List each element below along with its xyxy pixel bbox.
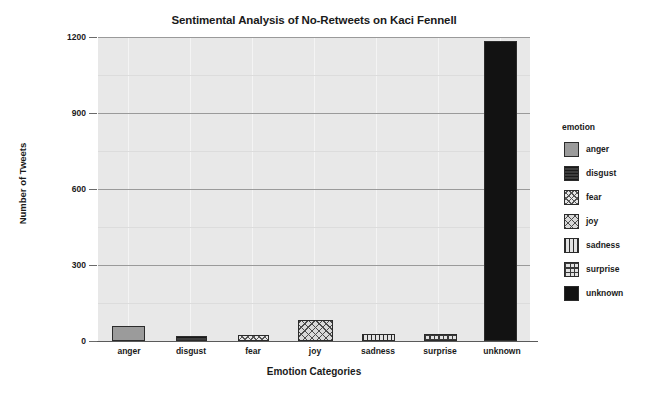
x-tick-label-sadness: sadness [361,346,395,356]
bar-chart: Sentimental Analysis of No-Retweets on K… [0,0,665,408]
bar-sadness[interactable] [362,334,395,341]
legend-label-surprise: surprise [586,264,620,274]
x-tick-label-disgust: disgust [176,346,206,356]
y-tick-label-600: 600 [50,184,86,194]
legend-label-joy: joy [586,216,598,226]
y-tickmark-600 [89,189,97,190]
plot-area [98,37,530,341]
legend-label-anger: anger [586,144,609,154]
x-tick-label-anger: anger [117,346,140,356]
x-tick-label-unknown: unknown [483,346,520,356]
legend-item-disgust[interactable]: disgust [562,161,662,185]
legend-swatch-unknown-icon [564,286,579,301]
y-tick-label-1200: 1200 [50,32,86,42]
legend-item-unknown[interactable]: unknown [562,281,662,305]
legend-title: emotion [562,122,662,132]
y-axis-tick-labels: 1200 900 600 300 0 [44,0,86,408]
legend-item-surprise[interactable]: surprise [562,257,662,281]
gridline-750 [98,151,530,152]
legend-swatch-joy-icon [564,214,579,229]
y-tickmark-300 [89,265,97,266]
legend-swatch-disgust-icon [564,166,579,181]
gridline-900 [98,113,530,114]
legend-item-joy[interactable]: joy [562,209,662,233]
bar-anger[interactable] [112,326,145,341]
legend-label-unknown: unknown [586,288,623,298]
legend-label-fear: fear [586,192,602,202]
bar-unknown[interactable] [484,41,517,341]
chart-title: Sentimental Analysis of No-Retweets on K… [98,14,530,26]
legend-item-fear[interactable]: fear [562,185,662,209]
y-tickmark-900 [89,113,97,114]
legend-item-anger[interactable]: anger [562,137,662,161]
x-axis-title: Emotion Categories [98,366,530,377]
y-axis-title: Number of Tweets [17,139,28,229]
y-tickmark-0 [89,341,97,342]
y-tickmark-1200 [89,37,97,38]
bar-surprise[interactable] [424,334,457,341]
legend-swatch-fear-icon [564,190,579,205]
gridline-300 [98,265,530,266]
y-tick-label-900: 900 [50,108,86,118]
gridline-1200 [98,37,530,38]
gridline-150 [98,303,530,304]
x-tick-label-joy: joy [309,346,321,356]
legend-item-sadness[interactable]: sadness [562,233,662,257]
x-tick-label-fear: fear [245,346,261,356]
gridline-450 [98,227,530,228]
legend-label-sadness: sadness [586,240,620,250]
legend-label-disgust: disgust [586,168,616,178]
y-tick-label-0: 0 [50,336,86,346]
legend-swatch-surprise-icon [564,262,579,277]
x-axis-tick-labels: anger disgust fear joy sadness surprise … [98,346,530,362]
gridline-600 [98,189,530,190]
y-tick-label-300: 300 [50,260,86,270]
legend-swatch-anger-icon [564,142,579,157]
legend-swatch-sadness-icon [564,238,579,253]
gridline-1050 [98,75,530,76]
bar-joy[interactable] [298,320,333,341]
legend: emotion anger disgust fear joy sadness s… [562,122,662,305]
x-tick-label-surprise: surprise [423,346,457,356]
x-axis-line [90,341,538,342]
